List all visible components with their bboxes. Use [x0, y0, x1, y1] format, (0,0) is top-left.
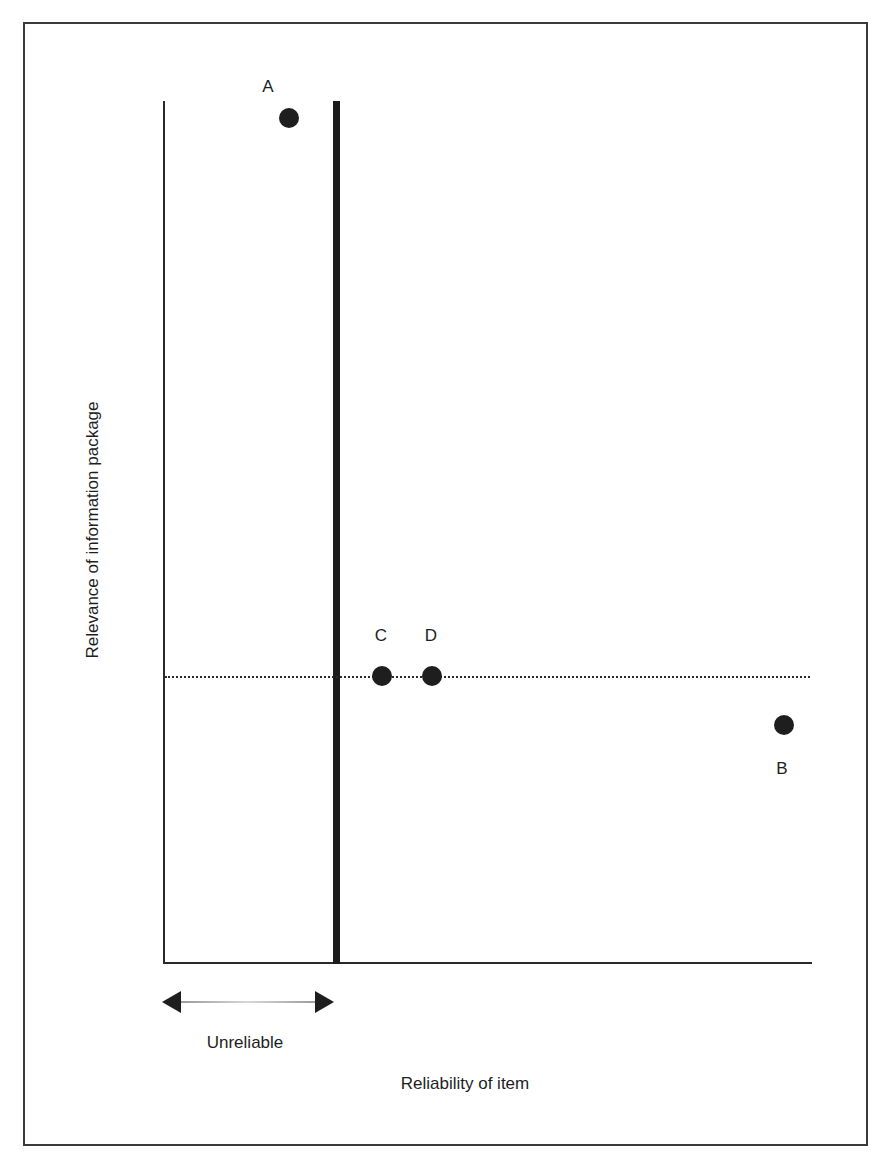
point-b-label: B	[776, 760, 787, 777]
point-b-marker	[774, 715, 794, 735]
point-c-label: C	[375, 627, 387, 644]
point-c-marker	[372, 666, 392, 686]
y-axis-label: Relevance of information package	[84, 401, 101, 658]
point-d-label: D	[425, 627, 437, 644]
figure-frame	[23, 22, 868, 1146]
point-a-label: A	[262, 78, 273, 95]
point-a-marker	[279, 108, 299, 128]
x-axis-label: Reliability of item	[401, 1075, 530, 1092]
unreliable-range-arrow-shaft	[180, 1001, 317, 1003]
relevance-reference-line	[165, 676, 810, 678]
arrow-right-icon	[315, 991, 334, 1013]
point-d-marker	[422, 666, 442, 686]
y-axis-line	[163, 101, 165, 964]
x-axis-line	[163, 962, 812, 964]
arrow-left-icon	[162, 991, 181, 1013]
unreliable-range-label: Unreliable	[207, 1034, 284, 1051]
reliability-threshold-line	[333, 101, 340, 964]
